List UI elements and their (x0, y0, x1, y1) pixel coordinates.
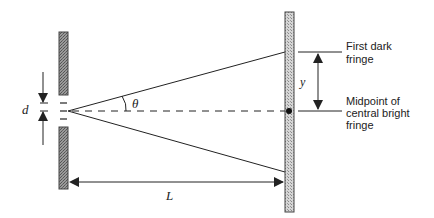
L-arrow-left-head (69, 177, 79, 187)
theta-label: θ (132, 96, 139, 111)
y-label: y (299, 75, 306, 89)
slit-separation-dimension: d (22, 72, 48, 145)
central-point-dot (286, 108, 292, 114)
barrier-bottom (59, 127, 68, 189)
d-label: d (22, 102, 29, 117)
slit-barrier (59, 32, 68, 189)
L-label: L (165, 188, 173, 203)
lower-ray (68, 111, 285, 172)
first-dark-fringe-label-2: fringe (346, 53, 374, 65)
barrier-top (59, 32, 68, 95)
upper-ray (68, 52, 285, 111)
central-bright-label-3: fringe (346, 119, 374, 131)
theta-arc (122, 96, 126, 111)
central-bright-label-1: Midpoint of (346, 95, 401, 107)
central-bright-label-2: central bright (346, 107, 410, 119)
first-dark-fringe-label-1: First dark (346, 40, 392, 52)
double-slit-diagram: d θ L y First dark fringe Midpoint of ce… (0, 0, 434, 218)
